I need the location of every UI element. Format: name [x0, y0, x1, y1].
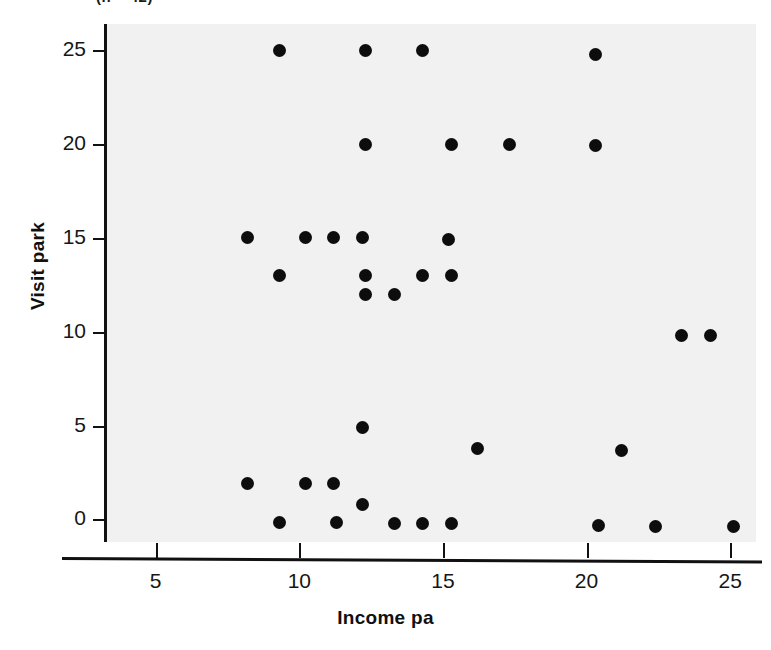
y-axis-tick-label: 0	[38, 506, 86, 530]
scatter-point	[359, 44, 372, 57]
y-axis-tick-label: 5	[38, 413, 86, 437]
scatter-point	[241, 477, 254, 490]
scatter-point	[359, 269, 372, 282]
x-axis-title: Income pa	[0, 607, 771, 629]
scatter-point	[589, 48, 602, 61]
y-axis-tick	[93, 332, 105, 334]
scatter-plot-figure: (n = 42) 5101520250510152025 Income pa V…	[0, 0, 771, 650]
scatter-point	[356, 498, 369, 511]
scatter-point	[330, 516, 343, 529]
scatter-point	[388, 288, 401, 301]
scatter-point	[592, 519, 605, 532]
y-axis-tick-label: 20	[38, 131, 86, 155]
x-axis-tick	[587, 543, 589, 558]
scatter-point	[327, 231, 340, 244]
x-axis-tick-label: 5	[126, 569, 186, 593]
scatter-point	[416, 269, 429, 282]
scatter-point	[359, 138, 372, 151]
x-axis-tick	[299, 543, 301, 558]
y-axis-title: Visit park	[27, 176, 49, 356]
y-axis-tick	[93, 426, 105, 428]
plot-area	[104, 24, 756, 542]
y-axis-tick	[93, 144, 105, 146]
scatter-point	[273, 44, 286, 57]
x-axis-tick-label: 15	[413, 569, 473, 593]
scatter-point	[416, 517, 429, 530]
scatter-point	[445, 138, 458, 151]
scatter-point	[471, 442, 484, 455]
scatter-point	[503, 138, 516, 151]
scatter-point	[273, 269, 286, 282]
x-axis-tick-label: 20	[557, 569, 617, 593]
scatter-point	[675, 329, 688, 342]
x-axis-line	[62, 557, 762, 563]
scatter-point	[615, 444, 628, 457]
scatter-point	[727, 520, 740, 533]
scatter-point	[416, 44, 429, 57]
scatter-point	[241, 231, 254, 244]
scatter-point	[299, 231, 312, 244]
scatter-point	[442, 233, 455, 246]
x-axis-tick	[730, 543, 732, 558]
x-axis-tick	[443, 543, 445, 558]
scatter-point	[704, 329, 717, 342]
scatter-point	[359, 288, 372, 301]
top-caption-fragment: (n = 42)	[96, 0, 356, 6]
x-axis-tick-label: 25	[700, 569, 760, 593]
scatter-point	[589, 139, 602, 152]
scatter-point	[649, 520, 662, 533]
scatter-point	[299, 477, 312, 490]
x-axis-tick	[156, 543, 158, 558]
scatter-point	[445, 269, 458, 282]
plot-canvas	[107, 24, 756, 542]
scatter-point	[356, 231, 369, 244]
y-axis-tick-label: 25	[38, 37, 86, 61]
scatter-point	[356, 421, 369, 434]
scatter-point	[327, 477, 340, 490]
scatter-point	[388, 517, 401, 530]
scatter-point	[273, 516, 286, 529]
y-axis-tick	[93, 238, 105, 240]
y-axis-tick	[93, 50, 105, 52]
x-axis-tick-label: 10	[269, 569, 329, 593]
y-axis-tick	[93, 519, 105, 521]
scatter-point	[445, 517, 458, 530]
